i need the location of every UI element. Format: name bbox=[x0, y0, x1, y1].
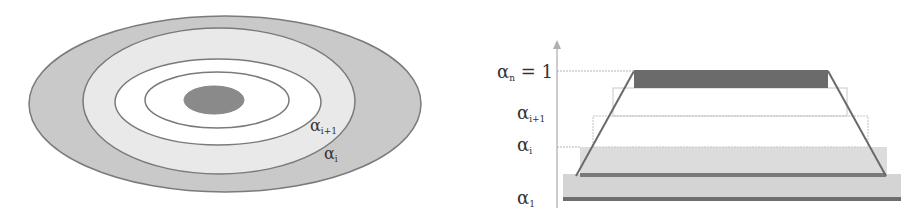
label-alpha-1-axis: α1 bbox=[517, 187, 535, 209]
band-upper-outline bbox=[613, 88, 847, 116]
label-alpha-i-plus-1-axis: αi+1 bbox=[517, 102, 545, 124]
band-alpha-1 bbox=[563, 174, 901, 200]
band-alpha-i-plus-1 bbox=[593, 116, 868, 147]
label-alpha-i-axis: αi bbox=[517, 134, 532, 156]
alpha-level-diagram: αn = 1 αi+1 αi α1 bbox=[497, 40, 901, 209]
support-line-alpha-i bbox=[580, 173, 886, 177]
band-alpha-i bbox=[580, 147, 887, 175]
y-axis-arrow-icon bbox=[553, 40, 561, 49]
contour-diagram: αi+1 αi bbox=[29, 16, 421, 192]
label-alpha-n-equals-1: αn = 1 bbox=[497, 61, 553, 83]
figure-canvas: αi+1 αi αn = 1 αi+1 bbox=[0, 0, 920, 217]
core-region bbox=[184, 86, 244, 114]
band-alpha-n bbox=[634, 70, 828, 88]
support-line-alpha-1 bbox=[563, 197, 901, 201]
